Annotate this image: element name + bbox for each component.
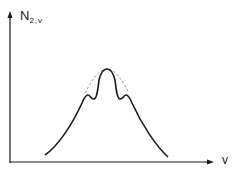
x-axis (10, 160, 214, 165)
solid-profile-curve (45, 69, 168, 157)
x-axis-arrow-icon (207, 160, 214, 165)
y-axis-label-main: N (20, 8, 29, 23)
y-axis-label: N2,v (20, 8, 43, 25)
y-axis (8, 11, 13, 163)
y-axis-arrow-icon (8, 11, 13, 18)
y-axis-label-subscript: 2,v (29, 16, 43, 25)
diagram-canvas (0, 0, 235, 185)
x-axis-label: v (222, 153, 228, 167)
dashed-smooth-curve (85, 69, 129, 93)
